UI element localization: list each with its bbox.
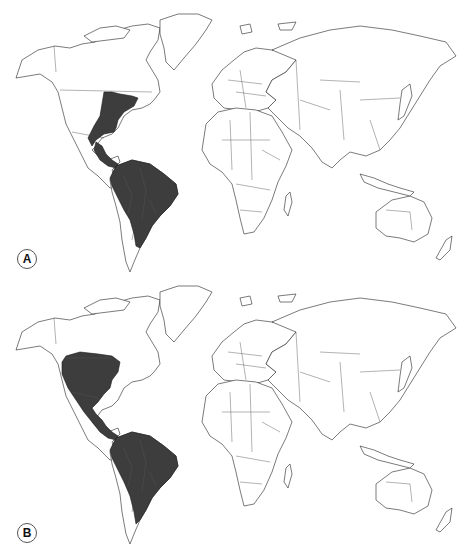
new-zealand — [436, 508, 452, 532]
map-panel-b: B — [0, 272, 468, 547]
greenland — [160, 286, 212, 342]
continents — [16, 14, 456, 272]
novaya-zemlya — [278, 294, 296, 302]
greenland — [160, 14, 212, 70]
svalbard — [240, 24, 252, 34]
svalbard — [240, 296, 252, 306]
indonesia — [360, 446, 414, 468]
australia — [376, 196, 432, 242]
africa — [202, 380, 292, 506]
panel-label-a: A — [17, 249, 37, 269]
asia — [266, 26, 456, 168]
novaya-zemlya — [278, 22, 296, 30]
australia — [376, 468, 432, 514]
madagascar — [284, 464, 292, 488]
indonesia — [360, 174, 414, 196]
map-panel-a: A — [0, 0, 468, 272]
world-map-b — [0, 272, 468, 547]
world-map-a — [0, 0, 468, 272]
new-zealand — [436, 236, 452, 260]
continents — [16, 286, 456, 544]
asia — [266, 298, 456, 440]
madagascar — [284, 192, 292, 216]
panel-label-b: B — [17, 523, 37, 543]
africa — [202, 108, 292, 234]
